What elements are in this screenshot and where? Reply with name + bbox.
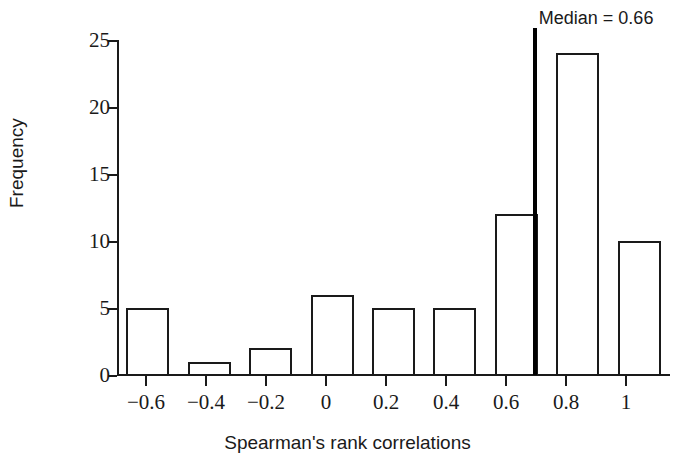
bar-4 xyxy=(372,308,415,375)
median-annotation-label: Median = 0.66 xyxy=(539,8,654,29)
y-tick-label: 10 xyxy=(89,229,110,254)
x-tick-label: 0.4 xyxy=(433,390,459,415)
y-tick-label: 5 xyxy=(100,296,111,321)
x-tick-label: −0.6 xyxy=(127,390,165,415)
median-line xyxy=(533,28,537,375)
x-tick-label: 0.2 xyxy=(373,390,399,415)
x-tick-label: 0 xyxy=(321,390,332,415)
histogram-figure: Frequency 0 5 10 15 20 25 xyxy=(0,0,695,472)
x-tick-label: 1 xyxy=(621,390,632,415)
x-tick-mark xyxy=(385,376,387,386)
bar-5 xyxy=(433,308,476,375)
bar-3 xyxy=(311,295,354,375)
x-tick-mark xyxy=(265,376,267,386)
y-tick-label: 25 xyxy=(89,28,110,53)
x-tick-label: 0.6 xyxy=(493,390,519,415)
x-axis-title: Spearman's rank correlations xyxy=(0,432,695,454)
y-tick-label: 0 xyxy=(100,363,111,388)
bar-6 xyxy=(495,214,538,375)
x-tick-label: −0.2 xyxy=(247,390,285,415)
plot-area: 0 5 10 15 20 25 −0.6 −0.4 xyxy=(117,40,670,376)
x-tick-mark xyxy=(145,376,147,386)
x-tick-mark xyxy=(325,376,327,386)
y-axis-line xyxy=(117,40,119,376)
x-tick-mark xyxy=(205,376,207,386)
x-tick-label: 0.8 xyxy=(553,390,579,415)
bar-8 xyxy=(618,241,661,375)
x-tick-mark xyxy=(445,376,447,386)
bar-7 xyxy=(556,53,599,375)
y-axis-title: Frequency xyxy=(6,118,28,208)
x-tick-mark xyxy=(505,376,507,386)
bar-0 xyxy=(126,308,169,375)
x-tick-mark xyxy=(565,376,567,386)
y-tick-label: 20 xyxy=(89,95,110,120)
x-tick-label: −0.4 xyxy=(187,390,225,415)
y-tick-label: 15 xyxy=(89,162,110,187)
bar-1 xyxy=(188,362,231,375)
bar-2 xyxy=(249,348,292,375)
x-tick-mark xyxy=(625,376,627,386)
